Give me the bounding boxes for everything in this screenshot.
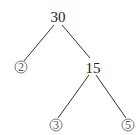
node-5: 5	[125, 118, 131, 132]
node-30: 30	[51, 9, 66, 25]
edge-30-15	[62, 25, 90, 58]
node-2: 2	[18, 60, 24, 74]
edge-15-5	[96, 75, 126, 118]
edge-15-3	[58, 75, 89, 118]
edge-30-2	[24, 25, 54, 61]
node-3: 3	[53, 118, 59, 132]
factor-tree: 30 2 15 3 5	[0, 0, 136, 135]
tree-edges	[24, 25, 126, 118]
node-15: 15	[86, 60, 101, 76]
